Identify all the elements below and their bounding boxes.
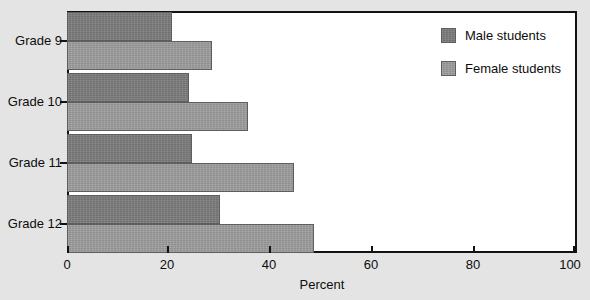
x-tick-20 [167, 246, 169, 253]
x-tick-80 [473, 246, 475, 253]
x-tick-100 [573, 246, 575, 253]
bar-grade-11-female [67, 163, 294, 192]
legend-label-female: Female students [465, 61, 561, 76]
x-tick-0 [67, 246, 69, 253]
y-axis-labels: Grade 9 Grade 10 Grade 11 Grade 12 [0, 0, 62, 300]
legend-item-male: Male students [441, 28, 561, 43]
bar-grade-9-female [67, 41, 212, 70]
bar-grade-9-male [67, 12, 172, 41]
x-tick-60 [371, 246, 373, 253]
y-label-grade-10: Grade 10 [0, 94, 62, 109]
legend-label-male: Male students [465, 28, 546, 43]
y-label-grade-11: Grade 11 [0, 155, 62, 170]
y-label-grade-12: Grade 12 [0, 216, 62, 231]
bar-grade-10-male [67, 73, 189, 102]
bar-grade-12-female [67, 224, 314, 253]
x-tick-label-40: 40 [262, 257, 276, 272]
x-axis-title: Percent [67, 277, 577, 292]
bar-grade-10-female [67, 102, 248, 131]
bar-grade-12-male [67, 195, 220, 224]
chart-legend: Male students Female students [441, 28, 561, 94]
x-tick-label-20: 20 [160, 257, 174, 272]
x-tick-40 [269, 246, 271, 253]
female-swatch-icon [441, 61, 456, 76]
legend-item-female: Female students [441, 61, 561, 76]
y-label-grade-9: Grade 9 [0, 33, 62, 48]
bar-chart: Grade 9 Grade 10 Grade 11 Grade 12 0 20 … [0, 0, 590, 300]
x-tick-label-0: 0 [63, 257, 70, 272]
x-tick-label-100: 100 [559, 257, 581, 272]
male-swatch-icon [441, 28, 456, 43]
bar-grade-11-male [67, 134, 192, 163]
x-tick-label-60: 60 [364, 257, 378, 272]
x-tick-label-80: 80 [466, 257, 480, 272]
